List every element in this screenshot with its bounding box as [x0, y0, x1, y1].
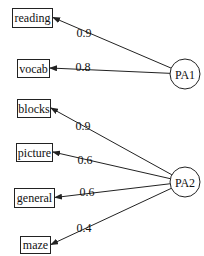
variable-label: picture	[18, 146, 51, 160]
observed-variables-layer: readingvocabblockspicturegeneralmaze	[13, 9, 55, 254]
loading-label-blocks: 0.9	[76, 119, 91, 133]
factor-diagram: 0.90.80.90.60.60.4 readingvocabblockspic…	[0, 0, 204, 256]
loading-arrow-pa2-blocks	[51, 108, 172, 175]
variable-node-maze: maze	[21, 237, 51, 254]
loading-arrow-pa2-general	[55, 184, 170, 198]
factor-node-pa2: PA2	[170, 167, 200, 197]
variable-node-picture: picture	[17, 144, 53, 162]
loading-label-maze: 0.4	[77, 221, 92, 235]
loading-arrow-pa2-picture	[53, 152, 170, 179]
variable-label: general	[17, 191, 53, 205]
loading-label-vocab: 0.8	[76, 60, 91, 74]
variable-node-general: general	[15, 189, 55, 208]
variable-label: blocks	[18, 102, 50, 116]
latent-factors-layer: PA1PA2	[170, 59, 200, 197]
loading-label-picture: 0.6	[78, 153, 93, 167]
loading-arrow-pa1-reading	[53, 18, 171, 69]
loading-arrow-pa2-maze	[51, 188, 171, 244]
loading-label-reading: 0.9	[77, 26, 92, 40]
variable-node-blocks: blocks	[18, 100, 51, 118]
variable-node-reading: reading	[13, 9, 53, 28]
variable-label: reading	[15, 11, 51, 25]
loading-arrow-pa1-vocab	[50, 68, 170, 73]
factor-label: PA2	[175, 176, 195, 190]
factor-label: PA1	[175, 68, 195, 82]
variable-label: maze	[23, 238, 48, 252]
factor-node-pa1: PA1	[170, 59, 200, 89]
variable-node-vocab: vocab	[18, 60, 50, 78]
loading-label-general: 0.6	[80, 185, 95, 199]
variable-label: vocab	[19, 62, 48, 76]
edges-layer	[50, 18, 172, 245]
